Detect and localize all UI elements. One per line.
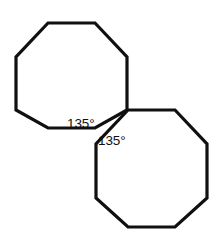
lower-right-octagon [96, 110, 207, 227]
octagon-diagram-svg [0, 0, 217, 233]
upper-left-octagon [16, 23, 127, 128]
octagon-figure: 135° 135° [0, 0, 217, 233]
angle-label-upper-left-octagon: 135° [67, 117, 95, 131]
angle-label-lower-right-octagon: 135° [98, 134, 126, 148]
